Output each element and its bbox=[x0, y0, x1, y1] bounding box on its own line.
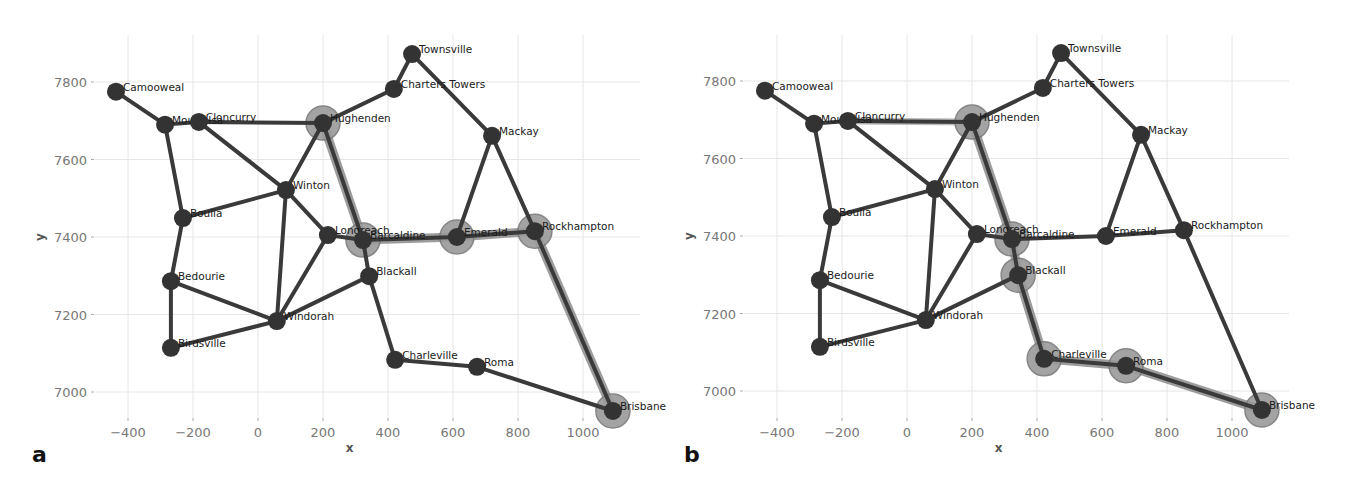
highlighted-path bbox=[306, 106, 630, 428]
y-tick-label: 7000 bbox=[54, 385, 87, 400]
y-tick-label: 7600 bbox=[703, 152, 736, 167]
edge bbox=[412, 54, 492, 136]
y-tick-label: 7800 bbox=[703, 74, 736, 89]
city-label: Townsville bbox=[418, 43, 472, 55]
x-tick-label: 400 bbox=[1025, 425, 1050, 440]
city-label: Barcaldine bbox=[370, 229, 426, 241]
y-axis-label: y bbox=[682, 232, 696, 240]
city-label: Blackall bbox=[1025, 264, 1066, 276]
edge bbox=[535, 231, 613, 411]
edge bbox=[1184, 230, 1262, 410]
edge bbox=[199, 122, 286, 190]
city-label: Rockhampton bbox=[542, 220, 614, 232]
edge bbox=[1141, 135, 1184, 230]
edge bbox=[457, 136, 492, 237]
city-label: Mackay bbox=[499, 125, 539, 137]
y-tick-label: 7800 bbox=[54, 75, 87, 90]
city-label: Camooweal bbox=[772, 80, 833, 92]
edge bbox=[286, 190, 328, 235]
edge bbox=[935, 189, 977, 234]
city-label: Windorah bbox=[284, 310, 334, 322]
x-axis-label: x bbox=[346, 441, 354, 455]
city-label: Boulia bbox=[190, 207, 223, 219]
city-label: Emerald bbox=[1113, 225, 1157, 237]
network-plot-b: −400−20002004006008001000700072007400760… bbox=[649, 0, 1329, 483]
x-tick-label: 200 bbox=[311, 425, 336, 440]
y-axis-label: y bbox=[33, 233, 47, 241]
x-tick-label: 800 bbox=[1155, 425, 1180, 440]
city-label: Cloncurry bbox=[206, 111, 256, 123]
edge bbox=[926, 189, 935, 320]
city-label: Mackay bbox=[1148, 124, 1188, 136]
city-label: Charters Towers bbox=[401, 78, 485, 90]
network-plot-a: −400−20002004006008001000700072007400760… bbox=[0, 0, 680, 483]
edge bbox=[395, 360, 477, 367]
city-label: Townsville bbox=[1067, 42, 1121, 54]
nodes: CamoowealMount IsaCloncurryHughendenTown… bbox=[107, 43, 666, 420]
panel-a: −400−20002004006008001000700072007400760… bbox=[0, 0, 680, 483]
edge bbox=[1106, 135, 1141, 236]
city-label: Birdsville bbox=[178, 337, 226, 349]
city-label: Barcaldine bbox=[1019, 228, 1075, 240]
x-tick-label: 600 bbox=[441, 425, 466, 440]
city-label: Brisbane bbox=[1269, 399, 1315, 411]
x-tick-label: −400 bbox=[759, 425, 795, 440]
panel-b: −400−20002004006008001000700072007400760… bbox=[649, 0, 1329, 483]
edge bbox=[171, 281, 277, 321]
x-tick-label: −400 bbox=[110, 425, 146, 440]
city-label: Emerald bbox=[464, 226, 508, 238]
edge bbox=[492, 136, 535, 231]
city-label: Hughenden bbox=[330, 112, 391, 124]
city-label: Winton bbox=[293, 179, 330, 191]
city-label: Cloncurry bbox=[855, 110, 905, 122]
x-tick-label: 400 bbox=[376, 425, 401, 440]
city-label: Winton bbox=[942, 178, 979, 190]
x-tick-label: 0 bbox=[903, 425, 911, 440]
city-label: Rockhampton bbox=[1191, 219, 1263, 231]
edge bbox=[1018, 275, 1044, 359]
city-label: Camooweal bbox=[123, 81, 184, 93]
x-tick-label: 800 bbox=[506, 425, 531, 440]
city-label: Birdsville bbox=[827, 336, 875, 348]
edge bbox=[1126, 366, 1262, 410]
x-tick-label: −200 bbox=[175, 425, 211, 440]
city-label: Windorah bbox=[933, 309, 983, 321]
city-label: Charleville bbox=[1051, 348, 1107, 360]
x-tick-label: 0 bbox=[254, 425, 262, 440]
city-label: Bedourie bbox=[178, 270, 225, 282]
city-label: Hughenden bbox=[979, 111, 1040, 123]
y-tick-label: 7400 bbox=[703, 229, 736, 244]
x-tick-label: 200 bbox=[960, 425, 985, 440]
panel-label-b: b bbox=[684, 442, 700, 467]
x-tick-label: 600 bbox=[1090, 425, 1115, 440]
edge bbox=[277, 190, 286, 321]
y-tick-label: 7600 bbox=[54, 153, 87, 168]
panel-label-a: a bbox=[32, 442, 47, 467]
city-label: Boulia bbox=[839, 206, 872, 218]
x-tick-label: −200 bbox=[824, 425, 860, 440]
edge bbox=[165, 125, 183, 218]
edge bbox=[820, 280, 926, 320]
x-axis-label: x bbox=[995, 441, 1003, 455]
y-tick-label: 7400 bbox=[54, 230, 87, 245]
y-tick-label: 7000 bbox=[703, 384, 736, 399]
edge bbox=[369, 276, 395, 360]
city-label: Charters Towers bbox=[1050, 77, 1134, 89]
city-label: Blackall bbox=[376, 265, 417, 277]
city-label: Charleville bbox=[402, 349, 458, 361]
edge bbox=[1061, 53, 1141, 135]
city-label: Roma bbox=[484, 356, 514, 368]
x-tick-label: 1000 bbox=[566, 425, 599, 440]
y-tick-label: 7200 bbox=[54, 308, 87, 323]
city-label: Roma bbox=[1133, 355, 1163, 367]
y-tick-label: 7200 bbox=[703, 307, 736, 322]
edge bbox=[814, 124, 832, 217]
city-label: Bedourie bbox=[827, 269, 874, 281]
edge bbox=[848, 121, 935, 189]
x-tick-label: 1000 bbox=[1215, 425, 1248, 440]
